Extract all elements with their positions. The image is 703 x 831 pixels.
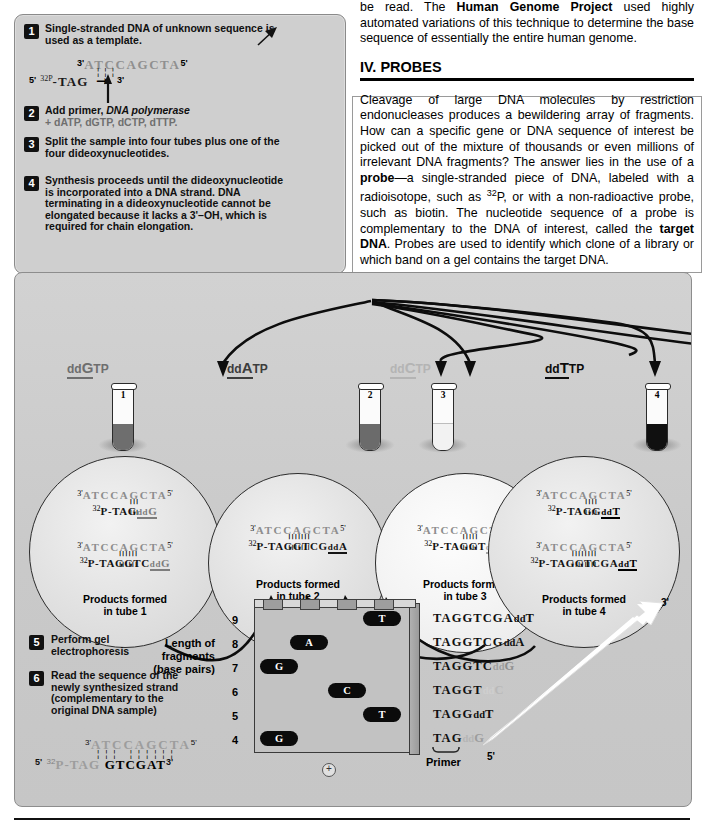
template-sequence-bottom: 5' 32P-TAG ➞ 3' [29,72,124,90]
c4r2-base: T [630,557,638,569]
top-content-area: 1 Single-stranded DNA of unknown sequenc… [0,0,703,272]
c2r1-base: A [339,540,348,552]
ladder-1-dd: dd [514,613,526,624]
step-text-3: Split the sample into four tubes plus on… [45,136,285,159]
ddttp-base: T [560,359,569,376]
ddatp-tp: TP [253,362,268,376]
final-seq-bottom: 5' 32P-TAG GTCGAT3' [35,755,173,773]
label-ddTTP: ddTTP [545,359,584,376]
tube-4-lip [645,383,671,390]
c1r1-p32: 32 [93,504,101,513]
ladder-3-dd: dd [493,661,505,672]
final-primer: P-TAG [56,757,100,772]
ladder-row-4: TAGGTddC [433,683,505,698]
tube-1-number: 1 [112,390,134,400]
label-ddATP: ddATP [227,359,268,376]
primer-3prime: 3' [117,75,124,85]
c3r1-primerseq: P-TAGGT [432,540,486,552]
ladder-5-seq: TAGG [433,707,473,721]
gel-well-1[interactable] [263,599,283,610]
ddttp-dd: dd [545,362,560,376]
circle2-row1-bottom: 32P-TAGGTCGddA [209,536,387,554]
tube-3-lip [431,383,457,390]
circle1-row2-bottom: 32P-TAGGTCddG [30,553,220,571]
gel-band-lane1-7: G [260,659,298,674]
ddgtp-dd: dd [67,362,82,376]
gel-well-2[interactable] [300,599,320,610]
ladder-1-seq: TAGGTCGA [433,611,514,625]
test-tube-3[interactable]: 3 [432,383,454,451]
step-number-1: 1 [24,24,39,39]
tube-2-number: 2 [359,390,381,400]
c1r1-base: G [148,505,157,517]
label-ddCTP: ddCTP [390,359,431,376]
gel-band-lane1-4: G [260,731,298,746]
c1r1-dd: dd [137,507,148,517]
ladder-row-5: TAGGddT [433,707,494,722]
step-number-4: 4 [24,176,39,191]
gel-tick-6: 6 [220,686,238,698]
procedure-steps-box: 1 Single-stranded DNA of unknown sequenc… [14,14,346,274]
template-sequence-top: 3'ATCCAGCTA5' [77,55,188,73]
final-5p: 5' [191,738,197,747]
final-read: GTCGAT [105,757,166,772]
products-circle-tube-1: 3'ATCCAGCTA5' ¦¦¦ 32P-TAGddG 3'ATCCAGCTA… [29,456,221,648]
ladder-2-base: A [515,635,525,649]
gel-slab-side [409,603,420,755]
primer-label: Primer [426,756,461,768]
ddgtp-tp: TP [93,362,108,376]
ddctp-base: C [405,359,416,376]
ladder-4-dd: dd [483,685,495,696]
page-bottom-rule [14,818,690,820]
ddctp-dd: dd [390,362,405,376]
c4r1-dd: dd [601,507,612,517]
gel-tick-8: 8 [220,638,238,650]
ladder-3prime-label: 3' [661,597,669,608]
gel-band-lane2-8: A [290,635,328,650]
gel-band-lane3-6: C [328,683,366,698]
ddgtp-base: G [82,359,94,376]
circle1-caption-l2: in tube 1 [103,605,146,617]
final-end3p: 3' [166,757,173,767]
section-heading-probes: IV. PROBES [360,59,694,75]
sanger-sequencing-figure-panel: ddGTP ddATP ddCTP ddTTP 1 2 3 [14,272,692,807]
ladder-3-base: G [505,659,516,673]
ladder-row-6: TAGddG [433,731,485,746]
paragraph-probes: Cleavage of large DNA molecules by restr… [360,93,694,269]
tube-1-fill [113,424,133,450]
test-tube-1[interactable]: 1 [112,383,134,451]
gel-well-3[interactable] [337,599,357,610]
ladder-6-seq: TAG [433,731,462,745]
gel-well-4[interactable] [374,599,394,610]
final-p32: 32 [47,757,56,766]
c1r2-primerseq: P-TAGGTC [88,557,150,569]
c2r1-primerseq: P-TAGGTCG [257,540,328,552]
tube-2-lip [358,383,384,390]
c4r1-primerseq: P-TAGG [556,505,602,517]
ladder-row-3: TAGGTCddG [433,659,515,674]
ddatp-base: A [242,359,253,376]
ladder-5-base: T [485,707,494,721]
test-tube-2[interactable]: 2 [359,383,381,451]
circle2-caption-l1: Products formed [256,578,340,590]
ladder-2-seq: TAGGTCG [433,635,504,649]
step-number-2: 2 [24,106,39,121]
phosphorus-32-label: 32P [40,74,52,83]
step-text-4: Synthesis proceeds until the dideoxynucl… [45,175,293,233]
section-heading-rule [360,78,694,81]
ladder-3-seq: TAGGTC [433,659,493,673]
c1r2-base: G [161,557,170,569]
test-tube-4[interactable]: 4 [646,383,668,451]
circle4-caption-l1: Products formed [542,593,626,605]
circle1-row1-bottom: 32P-TAGddG [30,501,220,519]
c4r2-dd: dd [618,559,629,569]
step-text-2: Add primer, DNA polymerase + dATP, dGTP,… [45,105,295,128]
ladder-4-base: C [494,683,504,697]
ladder-5-dd: dd [473,709,485,720]
ladder-6-base: G [474,731,485,745]
final-left5p: 5' [35,757,42,767]
ladder-row-1: TAGGTCGAddT [433,611,535,626]
gel-band-lane4-5: T [363,707,401,722]
ddttp-tp: TP [569,362,584,376]
ladder-6-dd: dd [462,733,474,744]
